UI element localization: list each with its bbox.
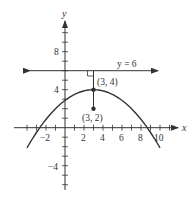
focus-point [91, 107, 95, 111]
x-axis-label: x [181, 122, 187, 133]
right-angle-marker [88, 71, 94, 76]
x-tick-label: 2 [81, 133, 86, 143]
x-tick-label: 8 [138, 133, 143, 143]
directrix-label: y = 6 [117, 59, 137, 69]
focus-label: (3, 2) [82, 113, 103, 124]
vertex-label: (3, 4) [97, 77, 118, 88]
parabola-diagram: x y −2 2 4 6 8 10 8 4 −4 y = 6 (3, 4) (3… [0, 0, 194, 203]
y-tick-label: −4 [48, 162, 58, 172]
y-tick-label: 4 [54, 85, 59, 95]
vertex-point [91, 88, 95, 92]
x-tick-label: −2 [40, 133, 50, 143]
x-tick-label: 4 [100, 133, 105, 143]
x-tick-label: 6 [119, 133, 124, 143]
y-axis-label: y [61, 8, 67, 19]
y-tick-label: 8 [54, 47, 59, 57]
